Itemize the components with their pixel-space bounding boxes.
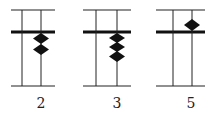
- bead-icon: [184, 19, 200, 31]
- abacus-1: 2: [11, 10, 55, 111]
- abacus-label: 5: [187, 95, 196, 111]
- bead-icon: [109, 42, 125, 52]
- abacus-label: 2: [37, 95, 46, 111]
- abacus-3: 5: [156, 10, 205, 111]
- abacus-label: 3: [113, 95, 122, 111]
- abacus-diagram: 2 3 5: [0, 0, 214, 118]
- bead-icon: [33, 44, 49, 55]
- bead-icon: [33, 33, 49, 44]
- bead-icon: [109, 51, 125, 62]
- abacus-2: 3: [83, 10, 131, 111]
- bead-icon: [109, 33, 125, 43]
